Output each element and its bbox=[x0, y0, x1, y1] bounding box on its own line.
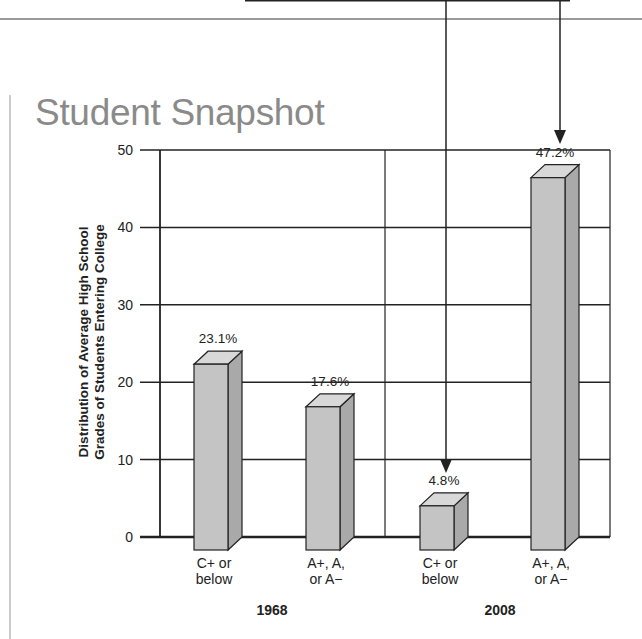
group-label: 1968 bbox=[256, 602, 287, 618]
bar-value-label: 23.1% bbox=[199, 331, 237, 346]
x-category-label: A+, A, bbox=[307, 555, 345, 571]
x-category-label: C+ or bbox=[197, 555, 232, 571]
x-category-label: or A− bbox=[309, 571, 342, 587]
x-category-label: or A− bbox=[534, 571, 567, 587]
svg-text:Grades of Students Entering Co: Grades of Students Entering College bbox=[92, 224, 107, 460]
y-tick-label: 10 bbox=[117, 452, 133, 468]
y-tick-label: 40 bbox=[117, 219, 133, 235]
x-category-label: below bbox=[196, 571, 233, 587]
x-category-label: below bbox=[422, 571, 459, 587]
arrow-head-icon bbox=[554, 130, 566, 144]
y-axis-label: Distribution of Average High School bbox=[76, 227, 91, 458]
bar-value-label: 47.2% bbox=[536, 145, 574, 160]
x-category-label: A+, A, bbox=[532, 555, 570, 571]
y-tick-label: 20 bbox=[117, 374, 133, 390]
y-tick-label: 30 bbox=[117, 297, 133, 313]
bar-value-label: 4.8% bbox=[429, 473, 460, 488]
arrow-head-icon bbox=[440, 459, 452, 473]
x-category-label: C+ or bbox=[423, 555, 458, 571]
bar bbox=[531, 178, 565, 550]
bar bbox=[194, 364, 228, 550]
bar-chart: 01020304050Distribution of Average High … bbox=[0, 0, 642, 639]
group-label: 2008 bbox=[484, 602, 515, 618]
bar-value-label: 17.6% bbox=[311, 374, 349, 389]
y-tick-label: 0 bbox=[125, 529, 133, 545]
bar bbox=[420, 506, 454, 550]
y-tick-label: 50 bbox=[117, 142, 133, 158]
bar bbox=[306, 407, 340, 550]
